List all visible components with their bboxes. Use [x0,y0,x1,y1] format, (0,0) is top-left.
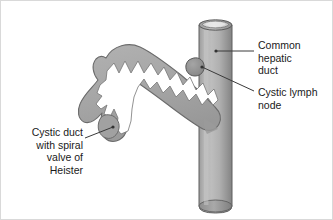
leader-dot-cystic-lymph-node [200,65,203,68]
label-cystic-lymph-node: Cystic lymph node [258,86,318,111]
anatomy-figure: Common hepatic duct Cystic lymph node Cy… [0,0,333,220]
label-common-hepatic-duct: Common hepatic duct [258,39,301,77]
duct-bottom-rim [199,200,232,212]
leader-dot-common-hepatic-duct [214,49,217,52]
leader-dot-cystic-duct [111,125,114,128]
label-cystic-duct: Cystic duct with spiral valve of Heister [7,126,83,176]
